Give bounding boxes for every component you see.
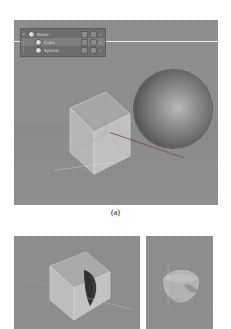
outliner-row-icons[interactable]: ✓ — [81, 31, 103, 38]
outliner-panel[interactable]: ▸ Boole ✓ Cube ✓ — [20, 28, 106, 57]
object-icon — [35, 47, 42, 54]
3d-viewport[interactable]: ▸ Boole ✓ Cube ✓ — [14, 20, 218, 205]
viewport-visibility-icon[interactable] — [90, 31, 97, 38]
outliner-row-label: Sphere — [44, 47, 79, 54]
checkbox-icon[interactable]: ✓ — [99, 48, 103, 53]
object-icon — [28, 31, 35, 38]
figure-root: ▸ Boole ✓ Cube ✓ — [0, 0, 231, 329]
render-visibility-icon[interactable] — [81, 31, 88, 38]
outliner-row-label: Boole — [37, 31, 79, 38]
boolean-difference-panel[interactable] — [14, 236, 140, 329]
disclosure-triangle-icon[interactable]: ▸ — [23, 31, 26, 37]
tree-indent-guide — [23, 47, 33, 53]
sphere-object[interactable] — [134, 70, 212, 148]
viewport-visibility-icon[interactable] — [90, 39, 97, 46]
outliner-row-icons[interactable]: ✓ — [81, 39, 103, 46]
render-visibility-icon[interactable] — [81, 47, 88, 54]
boolean-intersect-panel[interactable] — [146, 236, 213, 329]
outliner-row-icons[interactable]: ✓ — [81, 47, 103, 54]
bottom-panel-row — [14, 236, 213, 329]
outliner-row-label: Cube — [44, 39, 79, 46]
sphere-wireframe-overlay — [134, 70, 212, 148]
checkbox-icon[interactable]: ✓ — [99, 40, 103, 45]
checkbox-icon[interactable]: ✓ — [99, 32, 103, 37]
render-visibility-icon[interactable] — [81, 39, 88, 46]
figure-caption-a: (a) — [0, 208, 231, 217]
object-icon — [35, 39, 42, 46]
outliner-row-boole[interactable]: ▸ Boole ✓ — [21, 30, 105, 38]
outliner-row-sphere[interactable]: Sphere ✓ — [21, 46, 105, 54]
tree-indent-guide — [23, 39, 33, 45]
viewport-visibility-icon[interactable] — [90, 47, 97, 54]
outliner-row-cube[interactable]: Cube ✓ — [21, 38, 105, 46]
